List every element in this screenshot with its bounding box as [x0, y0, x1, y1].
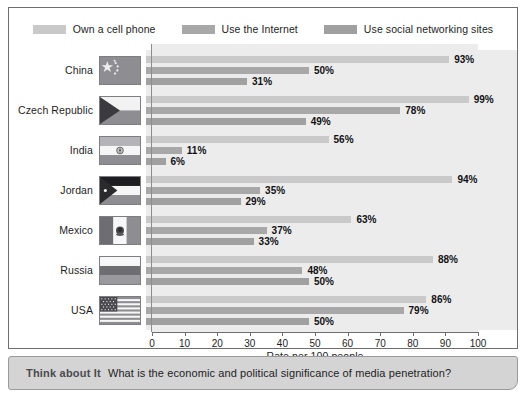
india-flag [99, 136, 141, 165]
plot-left-axis-line [151, 44, 152, 332]
country-label: China [9, 64, 99, 76]
bar-value-label: 11% [187, 146, 206, 156]
legend-item-use-social-networking-sites: Use social networking sites [324, 23, 493, 35]
x-axis-tick [315, 332, 316, 336]
bar-use-social-networking-sites [146, 158, 166, 165]
bar-use-the-internet [146, 187, 260, 194]
bar-use-the-internet [146, 67, 309, 74]
bar-value-label: 79% [409, 306, 429, 316]
chart-rows: China 93%50%31%Czech Republic 99%78%49%I… [9, 50, 517, 330]
bar-value-label: 6% [171, 157, 185, 167]
usa-flag [99, 296, 141, 325]
chart-plot-region: China 93%50%31%Czech Republic 99%78%49%I… [9, 44, 517, 350]
x-axis-tick [445, 332, 446, 336]
bar-value-label: 49% [311, 117, 331, 127]
country-label: India [9, 144, 99, 156]
bar-line: 50% [146, 318, 334, 325]
bar-value-label: 48% [307, 266, 327, 276]
row-bars: 88%48%50% [146, 250, 517, 290]
legend-item-own-a-cell-phone: Own a cell phone [33, 23, 156, 35]
bar-own-a-cell-phone [146, 96, 469, 103]
jordan-flag [99, 176, 141, 205]
row-bars: 99%78%49% [146, 90, 517, 130]
bar-line: 86% [146, 296, 451, 303]
bar-line: 93% [146, 56, 474, 63]
bar-use-the-internet [146, 267, 302, 274]
bar-use-the-internet [146, 107, 400, 114]
bar-line: 33% [146, 238, 279, 245]
legend-swatch-own-a-cell-phone [33, 25, 66, 34]
bar-line: 29% [146, 198, 266, 205]
x-axis-tick-label: 70 [375, 338, 386, 349]
bar-use-social-networking-sites [146, 278, 309, 285]
mexico-flag [99, 216, 141, 245]
bar-value-label: 29% [246, 197, 266, 207]
country-label: Czech Republic [9, 104, 99, 116]
x-axis-tick [413, 332, 414, 336]
callout-title: Think about It [26, 367, 101, 379]
bar-line: 31% [146, 78, 272, 85]
x-axis-tick-label: 0 [149, 338, 155, 349]
legend-label-use-the-internet: Use the Internet [222, 23, 298, 35]
x-axis-tick [282, 332, 283, 336]
x-axis: 0102030405060708090100 [152, 332, 478, 333]
row-bars: 86%79%50% [146, 290, 517, 330]
china-flag [99, 56, 141, 85]
x-axis-tick [380, 332, 381, 336]
x-axis-tick-label: 40 [277, 338, 288, 349]
x-axis-tick-label: 30 [244, 338, 255, 349]
x-axis-tick [217, 332, 218, 336]
bar-value-label: 93% [454, 55, 474, 65]
russia-flag [99, 256, 141, 285]
legend-label-use-social-networking-sites: Use social networking sites [364, 23, 493, 35]
bar-use-social-networking-sites [146, 238, 254, 245]
bar-line: 37% [146, 227, 292, 234]
callout-question: What is the economic and political signi… [108, 367, 451, 379]
bar-line: 50% [146, 278, 334, 285]
bar-own-a-cell-phone [146, 216, 351, 223]
bar-own-a-cell-phone [146, 56, 449, 63]
czech-republic-flag [99, 96, 141, 125]
bar-value-label: 33% [259, 237, 279, 247]
bar-line: 88% [146, 256, 458, 263]
chart-row: China 93%50%31% [9, 50, 517, 90]
think-about-it-callout: Think about It What is the economic and … [8, 356, 518, 390]
x-axis-tick [250, 332, 251, 336]
chart-row: Jordan 94%35%29% [9, 170, 517, 210]
bar-line: 11% [146, 147, 206, 154]
bar-value-label: 50% [314, 66, 334, 76]
x-axis-tick [152, 332, 153, 336]
row-bars: 94%35%29% [146, 170, 517, 210]
x-axis-tick-label: 100 [470, 338, 487, 349]
chart-row: Czech Republic 99%78%49% [9, 90, 517, 130]
row-bars: 63%37%33% [146, 210, 517, 250]
x-axis-tick [478, 332, 479, 336]
legend-item-use-the-internet: Use the Internet [182, 23, 298, 35]
chart-row: India 56%11%6% [9, 130, 517, 170]
bar-use-the-internet [146, 227, 267, 234]
bar-line: 35% [146, 187, 285, 194]
x-axis-tick-label: 60 [342, 338, 353, 349]
bar-use-social-networking-sites [146, 198, 241, 205]
country-label: USA [9, 304, 99, 316]
legend-swatch-use-social-networking-sites [324, 25, 357, 34]
x-axis-tick [185, 332, 186, 336]
bar-use-social-networking-sites [146, 318, 309, 325]
x-axis-tick-label: 20 [212, 338, 223, 349]
row-bars: 56%11%6% [146, 130, 517, 170]
bar-value-label: 31% [252, 77, 272, 87]
bar-line: 99% [146, 96, 494, 103]
bar-line: 94% [146, 176, 477, 183]
x-axis-tick [348, 332, 349, 336]
bar-value-label: 37% [272, 226, 292, 236]
bar-value-label: 94% [457, 175, 477, 185]
bar-value-label: 50% [314, 317, 334, 327]
x-axis-tick-label: 80 [407, 338, 418, 349]
country-label: Russia [9, 264, 99, 276]
bar-line: 50% [146, 67, 334, 74]
legend-label-own-a-cell-phone: Own a cell phone [73, 23, 156, 35]
bar-line: 78% [146, 107, 425, 114]
chart-row: Russia 88%48%50% [9, 250, 517, 290]
country-label: Mexico [9, 224, 99, 236]
bar-own-a-cell-phone [146, 176, 452, 183]
